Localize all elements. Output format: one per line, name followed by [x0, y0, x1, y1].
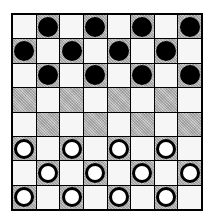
board-square-r4-c0[interactable] [13, 113, 36, 136]
board-square-r7-c2[interactable] [60, 186, 83, 209]
board-square-r4-c5[interactable] [131, 113, 154, 136]
board-square-r3-c5[interactable] [131, 88, 154, 111]
board-square-r6-c1[interactable] [37, 161, 60, 184]
board-square-r0-c2[interactable] [60, 15, 83, 38]
black-checker-piece[interactable] [85, 65, 105, 85]
board-square-r7-c6[interactable] [155, 186, 178, 209]
board-square-r6-c2[interactable] [60, 161, 83, 184]
checkers-board [11, 13, 203, 211]
board-square-r7-c5[interactable] [131, 186, 154, 209]
white-checker-piece[interactable] [156, 139, 176, 159]
white-checker-piece[interactable] [85, 163, 105, 183]
white-checker-piece[interactable] [156, 187, 176, 207]
black-checker-piece[interactable] [85, 17, 105, 37]
board-square-r6-c6[interactable] [155, 161, 178, 184]
board-square-r6-c5[interactable] [131, 161, 154, 184]
board-square-r1-c5[interactable] [131, 39, 154, 62]
black-checker-piece[interactable] [38, 65, 58, 85]
board-square-r4-c2[interactable] [60, 113, 83, 136]
board-square-r2-c5[interactable] [131, 64, 154, 87]
board-square-r3-c0[interactable] [13, 88, 36, 111]
board-square-r0-c4[interactable] [108, 15, 131, 38]
board-square-r1-c1[interactable] [37, 39, 60, 62]
black-checker-piece[interactable] [132, 17, 152, 37]
white-checker-piece[interactable] [180, 163, 200, 183]
board-square-r6-c3[interactable] [84, 161, 107, 184]
board-square-r2-c0[interactable] [13, 64, 36, 87]
white-checker-piece[interactable] [14, 187, 34, 207]
board-square-r5-c0[interactable] [13, 137, 36, 160]
board-square-r2-c4[interactable] [108, 64, 131, 87]
white-checker-piece[interactable] [38, 163, 58, 183]
board-square-r4-c7[interactable] [178, 113, 201, 136]
black-checker-piece[interactable] [180, 65, 200, 85]
board-square-r1-c6[interactable] [155, 39, 178, 62]
board-square-r0-c7[interactable] [178, 15, 201, 38]
board-square-r5-c3[interactable] [84, 137, 107, 160]
black-checker-piece[interactable] [14, 41, 34, 61]
board-square-r1-c0[interactable] [13, 39, 36, 62]
board-square-r4-c3[interactable] [84, 113, 107, 136]
black-checker-piece[interactable] [38, 17, 58, 37]
board-square-r1-c4[interactable] [108, 39, 131, 62]
board-square-r5-c1[interactable] [37, 137, 60, 160]
board-square-r7-c7[interactable] [178, 186, 201, 209]
board-square-r5-c6[interactable] [155, 137, 178, 160]
board-square-r2-c2[interactable] [60, 64, 83, 87]
board-square-r1-c7[interactable] [178, 39, 201, 62]
board-square-r0-c3[interactable] [84, 15, 107, 38]
board-square-r2-c3[interactable] [84, 64, 107, 87]
board-square-r0-c0[interactable] [13, 15, 36, 38]
board-square-r6-c7[interactable] [178, 161, 201, 184]
white-checker-piece[interactable] [132, 163, 152, 183]
board-square-r5-c7[interactable] [178, 137, 201, 160]
white-checker-piece[interactable] [62, 187, 82, 207]
board-square-r3-c4[interactable] [108, 88, 131, 111]
black-checker-piece[interactable] [180, 17, 200, 37]
board-square-r2-c1[interactable] [37, 64, 60, 87]
board-square-r6-c0[interactable] [13, 161, 36, 184]
board-square-r2-c6[interactable] [155, 64, 178, 87]
board-square-r5-c5[interactable] [131, 137, 154, 160]
board-square-r0-c5[interactable] [131, 15, 154, 38]
board-square-r0-c6[interactable] [155, 15, 178, 38]
board-square-r7-c3[interactable] [84, 186, 107, 209]
board-square-r3-c7[interactable] [178, 88, 201, 111]
board-square-r3-c1[interactable] [37, 88, 60, 111]
board-square-r2-c7[interactable] [178, 64, 201, 87]
white-checker-piece[interactable] [62, 139, 82, 159]
board-square-r4-c1[interactable] [37, 113, 60, 136]
white-checker-piece[interactable] [109, 187, 129, 207]
board-square-r7-c4[interactable] [108, 186, 131, 209]
black-checker-piece[interactable] [62, 41, 82, 61]
board-square-r0-c1[interactable] [37, 15, 60, 38]
board-square-r4-c6[interactable] [155, 113, 178, 136]
board-square-r5-c2[interactable] [60, 137, 83, 160]
white-checker-piece[interactable] [14, 139, 34, 159]
board-square-r3-c2[interactable] [60, 88, 83, 111]
board-square-r1-c3[interactable] [84, 39, 107, 62]
board-square-r1-c2[interactable] [60, 39, 83, 62]
board-square-r3-c6[interactable] [155, 88, 178, 111]
white-checker-piece[interactable] [109, 139, 129, 159]
board-square-r6-c4[interactable] [108, 161, 131, 184]
black-checker-piece[interactable] [109, 41, 129, 61]
board-square-r7-c0[interactable] [13, 186, 36, 209]
black-checker-piece[interactable] [156, 41, 176, 61]
black-checker-piece[interactable] [132, 65, 152, 85]
board-square-r3-c3[interactable] [84, 88, 107, 111]
board-square-r7-c1[interactable] [37, 186, 60, 209]
board-square-r5-c4[interactable] [108, 137, 131, 160]
board-square-r4-c4[interactable] [108, 113, 131, 136]
